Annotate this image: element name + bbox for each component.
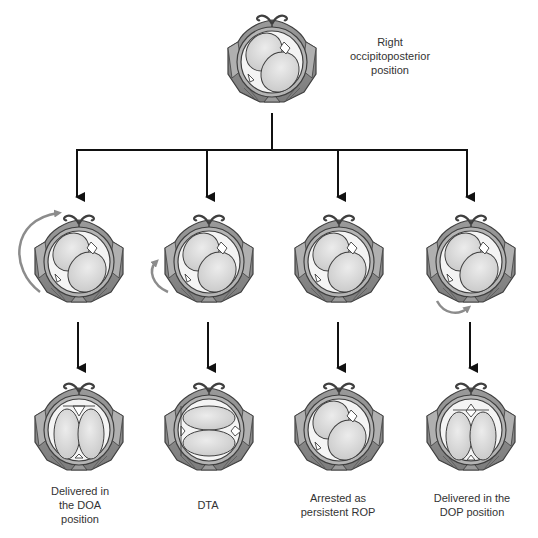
pelvis-middle-2-rop <box>161 208 257 308</box>
pelvis-bottom-doa <box>31 376 127 476</box>
label-dta: DTA <box>156 498 260 512</box>
top-label: Right occipitoposterior position <box>330 35 450 77</box>
label-doa: Delivered in the DOA position <box>28 484 132 526</box>
pelvis-bottom-dta <box>161 376 257 476</box>
label-persistent-rop: Arrested as persistent ROP <box>284 491 392 519</box>
pelvis-middle-4-rop <box>423 208 519 308</box>
pelvis-top-rop <box>224 8 320 108</box>
label-dop: Delivered in the DOP position <box>416 491 528 519</box>
pelvis-bottom-dop <box>423 376 519 476</box>
pelvis-middle-3-rop <box>291 208 387 308</box>
pelvis-middle-1-rop <box>31 208 127 308</box>
pelvis-bottom-rop <box>291 376 387 476</box>
